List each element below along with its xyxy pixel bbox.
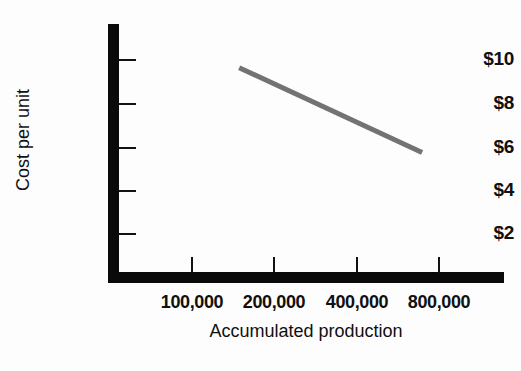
y-axis-tick-4 [119, 190, 136, 192]
x-axis-tick-label-800000: 800,000 [379, 293, 499, 311]
y-axis-tick-label-6: $6 [413, 137, 521, 156]
y-axis-tick-label-4: $4 [413, 180, 521, 199]
y-axis-tick-2 [119, 233, 136, 235]
experience-curve-chart: $10 $8 $6 $4 $2 100,000 200,000 400,000 … [0, 0, 521, 371]
y-axis-tick-label-2: $2 [413, 223, 521, 242]
x-axis-tick-800000 [438, 257, 440, 273]
series-line-experience-curve [239, 68, 422, 153]
y-axis-line [108, 24, 119, 283]
x-axis-tick-400000 [356, 257, 358, 273]
x-axis-tick-200000 [273, 257, 275, 273]
y-axis-tick-10 [119, 59, 136, 61]
x-axis-line [108, 272, 504, 283]
y-axis-tick-label-10: $10 [413, 49, 521, 68]
y-axis-tick-6 [119, 147, 136, 149]
y-axis-tick-8 [119, 103, 136, 105]
x-axis-title: Accumulated production [108, 322, 504, 340]
x-axis-tick-100000 [191, 257, 193, 273]
y-axis-title: Cost per unit [14, 80, 32, 200]
y-axis-tick-label-8: $8 [413, 93, 521, 112]
